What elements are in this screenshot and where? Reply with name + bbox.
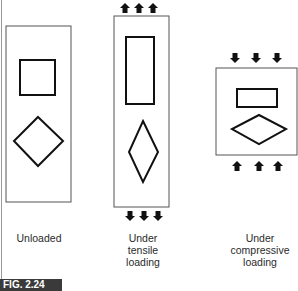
caption-line: Unloaded bbox=[8, 232, 70, 244]
flattened-diamond-marker bbox=[232, 115, 286, 144]
panel-tensile bbox=[114, 3, 169, 221]
tension-arrows-top bbox=[120, 3, 158, 13]
caption-compressive: Under compressive loading bbox=[224, 232, 296, 268]
compression-arrows-bottom bbox=[232, 161, 283, 171]
tension-arrows-bottom bbox=[125, 211, 163, 221]
panel-compressive bbox=[216, 53, 297, 171]
panel-unloaded bbox=[6, 26, 71, 202]
caption-tensile: Under tensile loading bbox=[112, 232, 174, 268]
caption-line: tensile bbox=[112, 244, 174, 256]
elongated-diamond-marker bbox=[129, 121, 158, 182]
caption-line: Under bbox=[112, 232, 174, 244]
specimen-frame bbox=[6, 26, 71, 202]
figure-label: FIG. 2.24 bbox=[0, 279, 62, 291]
caption-line: Under bbox=[224, 232, 296, 244]
caption-line: loading bbox=[224, 256, 296, 268]
caption-unloaded: Unloaded bbox=[8, 232, 70, 244]
caption-line: loading bbox=[112, 256, 174, 268]
flattened-rectangle-marker bbox=[237, 89, 277, 107]
caption-line: compressive bbox=[224, 244, 296, 256]
compression-arrows-top bbox=[230, 53, 282, 63]
square-marker bbox=[20, 60, 55, 95]
diamond-marker bbox=[14, 117, 63, 166]
elongated-rectangle-marker bbox=[126, 37, 154, 104]
